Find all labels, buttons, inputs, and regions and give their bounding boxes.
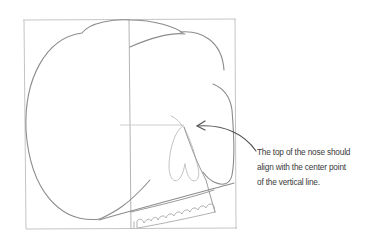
caption-line-3: of the vertical line.: [257, 174, 357, 189]
arrow-annotation: [197, 121, 256, 151]
caption-line-1: The top of the nose should: [257, 144, 357, 159]
nose-outline: [169, 116, 199, 181]
skull-construction-drawing: [0, 0, 373, 241]
annotation-caption: The top of the nose should align with th…: [257, 144, 357, 189]
caption-line-2: align with the center point: [257, 159, 357, 174]
teeth-outline: [134, 204, 215, 228]
vertical-center-line: [129, 19, 131, 229]
